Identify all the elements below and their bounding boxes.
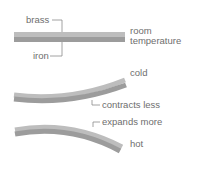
- hot-label: hot: [130, 138, 143, 149]
- expands-more-leader-line: [93, 122, 100, 127]
- iron-layer: [15, 131, 120, 151]
- strip-room-temperature: [14, 32, 125, 42]
- brass-leader-line: [52, 20, 62, 32]
- brass-label: brass: [26, 14, 49, 25]
- contracts-less-label: contracts less: [102, 99, 160, 110]
- cold-label: cold: [130, 67, 147, 78]
- contracts-less-leader-line: [92, 100, 100, 105]
- iron-label: iron: [33, 50, 49, 61]
- room-label-line2: temperature: [130, 35, 181, 46]
- brass-layer: [14, 32, 125, 37]
- bimetal-diagram: [0, 0, 198, 170]
- strip-cold: [14, 80, 126, 101]
- iron-layer: [14, 37, 125, 42]
- strip-hot: [15, 127, 122, 151]
- iron-leader-line: [50, 42, 62, 56]
- expands-more-label: expands more: [102, 116, 162, 127]
